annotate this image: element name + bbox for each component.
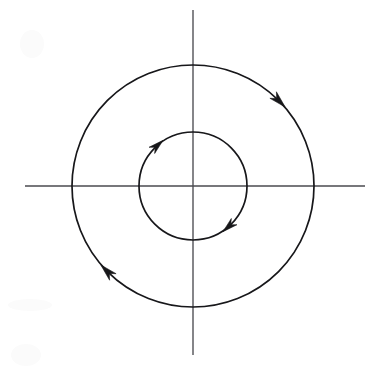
canvas-background	[0, 0, 378, 377]
paper-smudge-left	[8, 299, 52, 311]
paper-smudge-top-left	[20, 30, 44, 58]
paper-smudge-bottom-left	[11, 344, 41, 366]
figure-canvas	[0, 0, 378, 377]
phase-portrait-diagram	[0, 0, 378, 377]
